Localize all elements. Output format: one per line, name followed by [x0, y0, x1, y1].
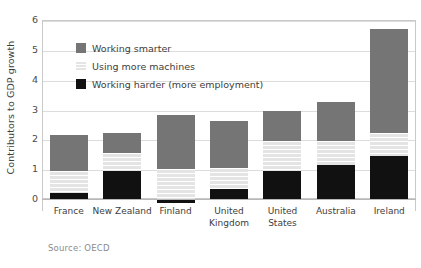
legend-label: Working smarter	[92, 43, 171, 54]
bar-segment[interactable]	[50, 171, 88, 193]
bar-segment[interactable]	[370, 133, 408, 155]
bar-segment[interactable]	[50, 135, 88, 171]
bar-segment[interactable]	[157, 169, 195, 199]
legend-item[interactable]: Working harder (more employment)	[76, 76, 263, 92]
legend-swatch-icon	[76, 61, 86, 71]
legend-label: Working harder (more employment)	[92, 79, 263, 90]
y-tick-label: 6	[22, 14, 38, 25]
bar-segment[interactable]	[370, 29, 408, 133]
y-axis-title: Contributors to GDP growth	[0, 0, 22, 215]
x-axis-ticks: FranceNew ZealandFinlandUnitedKingdomUni…	[42, 206, 416, 246]
legend-label: Using more machines	[92, 61, 195, 72]
chart-screenshot: Contributors to GDP growth 0123456 Franc…	[0, 0, 421, 268]
zero-line	[42, 199, 416, 200]
bar-segment[interactable]	[210, 189, 248, 199]
bar-segment[interactable]	[103, 171, 141, 199]
legend-swatch-icon	[76, 79, 86, 89]
legend-swatch-icon	[76, 43, 86, 53]
y-tick-label: 1	[22, 163, 38, 174]
bar-segment[interactable]	[370, 156, 408, 199]
y-tick-label: 4	[22, 74, 38, 85]
x-tick-label-line: Ireland	[358, 206, 420, 218]
y-tick-label: 3	[22, 104, 38, 115]
bar-segment[interactable]	[263, 171, 301, 199]
bar-segment[interactable]	[210, 168, 248, 189]
legend-item[interactable]: Working smarter	[76, 40, 263, 56]
bar-segment[interactable]	[317, 141, 355, 165]
chart-legend: Working smarterUsing more machinesWorkin…	[76, 40, 263, 94]
bar-segment[interactable]	[263, 141, 301, 171]
x-tick-label-line: States	[251, 218, 313, 230]
bar-segment[interactable]	[317, 165, 355, 199]
x-tick-label: Ireland	[358, 206, 420, 218]
y-tick-label: 0	[22, 193, 38, 204]
y-tick-label: 2	[22, 133, 38, 144]
bar-segment[interactable]	[317, 102, 355, 141]
bar-segment[interactable]	[157, 115, 195, 169]
y-tick-label: 5	[22, 44, 38, 55]
y-axis-title-text: Contributors to GDP growth	[6, 41, 17, 175]
bar-segment[interactable]	[103, 133, 141, 152]
legend-item[interactable]: Using more machines	[76, 58, 263, 74]
bar-segment[interactable]	[263, 111, 301, 141]
bar-segment[interactable]	[103, 153, 141, 171]
bar-segment[interactable]	[210, 121, 248, 167]
